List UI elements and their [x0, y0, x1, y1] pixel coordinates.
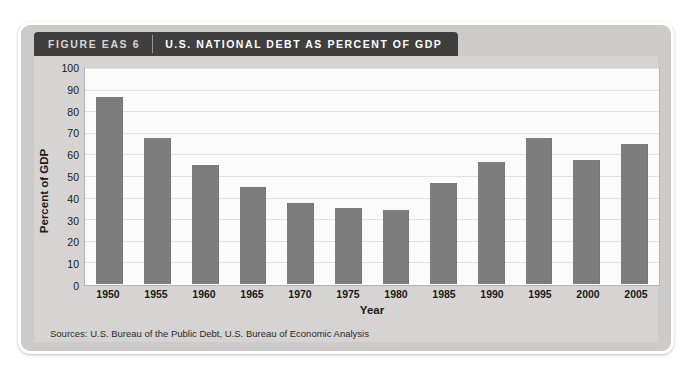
x-axis-tick-label: 1970: [276, 288, 324, 300]
y-axis-tick-label: 0: [73, 280, 79, 292]
gridline: [85, 68, 659, 69]
x-axis-tick-label: 1995: [516, 288, 564, 300]
bar-slot: [86, 70, 134, 284]
bar-1980: [383, 210, 410, 284]
x-axis-tick-label: 1955: [132, 288, 180, 300]
plot-area: [84, 68, 660, 286]
x-axis-tick-label: 1975: [324, 288, 372, 300]
bar-1950: [96, 97, 123, 284]
y-axis-tick-label: 70: [67, 127, 79, 139]
y-axis-tick-label: 20: [67, 236, 79, 248]
bar-slot: [563, 70, 611, 284]
bar-slot: [134, 70, 182, 284]
y-axis-title-text: Percent of GDP: [38, 149, 50, 233]
bar-slot: [277, 70, 325, 284]
y-axis-tick-label: 100: [61, 62, 79, 74]
bar-1985: [430, 183, 457, 284]
figure-title: U.S. NATIONAL DEBT AS PERCENT OF GDP: [153, 38, 458, 50]
bar-1955: [144, 138, 171, 284]
x-axis-tick-label: 1985: [420, 288, 468, 300]
bars-layer: [86, 70, 658, 284]
bar-slot: [372, 70, 420, 284]
bar-slot: [229, 70, 277, 284]
y-axis-tick-label: 30: [67, 215, 79, 227]
plot-frame: 0102030405060708090100: [84, 68, 660, 286]
figure-title-bar: FIGURE EAS 6 U.S. NATIONAL DEBT AS PERCE…: [34, 32, 458, 56]
figure-number-label: FIGURE EAS 6: [34, 38, 152, 50]
x-axis-tick-label: 1980: [372, 288, 420, 300]
x-axis-title: Year: [84, 304, 660, 316]
chart-body: Percent of GDP 0102030405060708090100 19…: [34, 56, 658, 342]
x-axis-tick-label: 1965: [228, 288, 276, 300]
y-axis-tick-label: 80: [67, 106, 79, 118]
figure-card: FIGURE EAS 6 U.S. NATIONAL DEBT AS PERCE…: [18, 22, 674, 354]
bar-slot: [515, 70, 563, 284]
x-axis-tick-label: 1990: [468, 288, 516, 300]
x-axis-tick-label: 2005: [612, 288, 660, 300]
bar-slot: [420, 70, 468, 284]
bar-1965: [240, 187, 267, 284]
bar-2005: [621, 144, 648, 284]
y-axis-tick-label: 90: [67, 84, 79, 96]
bar-slot: [181, 70, 229, 284]
bar-2000: [573, 160, 600, 284]
y-axis-tick-label: 10: [67, 258, 79, 270]
y-axis-tick-label: 60: [67, 149, 79, 161]
bar-slot: [324, 70, 372, 284]
bar-1970: [287, 203, 314, 284]
y-axis-title: Percent of GDP: [36, 106, 52, 276]
bar-1960: [192, 165, 219, 284]
y-axis-tick-label: 40: [67, 193, 79, 205]
x-axis-ticks: 1950195519601965197019751980198519901995…: [84, 288, 660, 300]
x-axis-tick-label: 2000: [564, 288, 612, 300]
bar-1995: [526, 138, 553, 284]
y-axis-tick-label: 50: [67, 171, 79, 183]
bar-1990: [478, 162, 505, 284]
bar-slot: [467, 70, 515, 284]
bar-1975: [335, 208, 362, 284]
x-axis-tick-label: 1950: [84, 288, 132, 300]
x-axis-tick-label: 1960: [180, 288, 228, 300]
bar-slot: [610, 70, 658, 284]
sources-note: Sources: U.S. Bureau of the Public Debt,…: [50, 328, 369, 339]
